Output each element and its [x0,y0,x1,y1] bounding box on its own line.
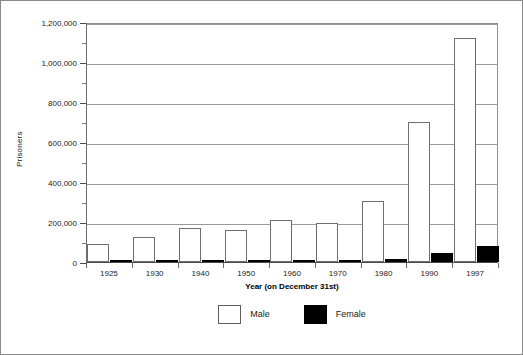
plot-area [86,23,498,263]
x-axis-tick-label: 1970 [329,269,347,278]
x-axis-tick [223,263,224,268]
x-axis-tick-label: 1997 [466,269,484,278]
x-axis-tick-label: 1930 [146,269,164,278]
bar-male-1940 [179,228,201,262]
x-axis-tick-label: 1925 [100,269,118,278]
chart-legend: Male Female [86,301,498,327]
y-axis-tick-label: 800,000 [1,99,77,108]
bar-male-1997 [454,38,476,262]
bar-group [224,24,270,262]
y-axis-tick-label: 1,000,000 [1,59,77,68]
bar-group [133,24,179,262]
chart-figure: Prisoners 0200,000400,000600,000800,0001… [0,0,523,355]
x-axis-tick [178,263,179,268]
x-axis-tick [132,263,133,268]
legend-label-female: Female [336,309,366,319]
bar-group [87,24,133,262]
bar-female-1960 [293,260,315,262]
bar-female-1980 [385,259,407,262]
bar-female-1950 [248,260,270,262]
x-axis-tick [315,263,316,268]
x-axis-tick-label: 1980 [375,269,393,278]
bar-female-1970 [339,260,361,262]
y-axis-tick-label: 200,000 [1,219,77,228]
bar-male-1980 [362,201,384,262]
bar-group [362,24,408,262]
legend-swatch-male-icon [218,305,241,324]
bar-group [453,24,499,262]
x-axis-tick [452,263,453,268]
x-axis-tick-label: 1990 [420,269,438,278]
x-axis-tick [406,263,407,268]
bar-male-1970 [316,223,338,262]
bar-group [179,24,225,262]
bar-group [316,24,362,262]
legend-entry-male: Male [218,305,270,324]
bar-female-1925 [110,260,132,262]
x-axis-tick [269,263,270,268]
y-axis-tick-label-layer: 0200,000400,000600,000800,0001,000,0001,… [1,23,77,263]
x-axis-tick-label: 1950 [237,269,255,278]
bar-female-1940 [202,260,224,262]
bar-female-1997 [477,246,499,262]
y-axis-tick-label: 0 [1,259,77,268]
bar-group [407,24,453,262]
y-axis-tick-label: 600,000 [1,139,77,148]
legend-entry-female: Female [304,305,366,324]
bar-male-1960 [270,220,292,262]
bar-female-1930 [156,260,178,262]
x-axis-tick [498,263,499,268]
y-axis-tick-label: 400,000 [1,179,77,188]
x-axis-tick [361,263,362,268]
x-axis-tick-label: 1940 [192,269,210,278]
x-axis-tick [86,263,87,268]
x-axis-tick-label: 1960 [283,269,301,278]
bar-male-1990 [408,122,430,262]
bar-male-1925 [87,244,109,262]
x-axis-title: Year (on December 31st) [86,282,498,291]
y-axis-tick-label: 1,200,000 [1,19,77,28]
bar-male-1930 [133,237,155,262]
bar-male-1950 [225,230,247,262]
legend-label-male: Male [250,309,270,319]
x-axis-tick-label-layer: 192519301940195019601970198019901997 [86,269,498,281]
bar-group [270,24,316,262]
legend-swatch-female-icon [304,305,327,324]
bar-female-1990 [431,253,453,262]
